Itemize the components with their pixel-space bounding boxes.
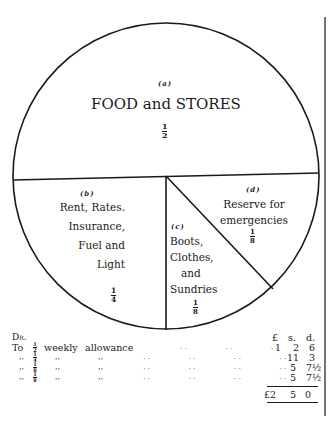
slice-b-fraction: 14	[111, 287, 116, 303]
total-rule-bottom	[267, 402, 318, 403]
slice-d-line: Reserve for	[219, 196, 289, 212]
ledger-row-2-desc2: ,,	[98, 352, 103, 361]
total-pence: 0	[305, 389, 311, 400]
slice-b-line: Insurance,	[15, 217, 125, 236]
fraction-denominator: 4	[111, 296, 116, 303]
fraction-denominator: 8	[250, 238, 255, 245]
slice-b-line: Fuel and	[15, 236, 125, 255]
slice-c-line: Clothes,	[170, 249, 217, 265]
slice-c-tag: (c)	[171, 222, 185, 231]
fraction-numerator: 1	[250, 229, 255, 236]
ledger-row-3-desc2: ,,	[98, 362, 103, 371]
slice-d-fraction: 18	[250, 229, 255, 244]
ledger-row-1-dots: .. .. ..	[180, 342, 280, 351]
ledger-row-4-pence: 7½	[306, 372, 321, 383]
total-rule-top	[267, 386, 318, 387]
fraction-denominator: 8	[33, 378, 36, 383]
fraction-numerator: 1	[193, 300, 198, 307]
ledger-row-3-prefix: ,,	[19, 362, 24, 371]
ledger-row-4-shillings: 5	[290, 372, 296, 383]
ledger-row-4-fraction: 18	[33, 372, 37, 382]
ledger-row-3-dots: .. .. .. ..	[143, 362, 288, 371]
ledger-row-2-dots: .. .. .. ..	[143, 352, 288, 361]
slice-d-line: emergencies	[219, 212, 289, 228]
ledger-row-3-desc1: ,,	[55, 362, 60, 371]
ledger-row-4-prefix: ,,	[19, 372, 24, 381]
slice-a-label: FOOD and STORES	[91, 95, 241, 113]
ledger-heading: Dr.	[12, 332, 27, 342]
ledger-row-1-desc1: weekly	[44, 342, 78, 353]
ledger-row-2-prefix: ,,	[19, 352, 24, 361]
slice-b-line: Light	[15, 255, 125, 274]
ledger-row-4-desc2: ,,	[98, 372, 103, 381]
slice-a-fraction: 12	[162, 123, 168, 139]
slice-c-fraction: 18	[193, 300, 198, 315]
fraction-numerator: 1	[162, 123, 168, 130]
fraction-denominator: 2	[162, 132, 168, 139]
slice-c-label: Boots, Clothes, and Sundries	[170, 233, 217, 297]
slice-b-line: Rent, Rates.	[15, 198, 125, 217]
slice-c-line: Sundries	[170, 281, 217, 297]
slice-d-tag: (d)	[246, 185, 261, 194]
ledger-row-1-desc2: allowance	[85, 342, 133, 353]
ledger-row-4-desc1: ,,	[55, 372, 60, 381]
fraction-denominator: 8	[193, 309, 198, 316]
total-pounds: £2	[264, 389, 276, 400]
slice-c-line: and	[170, 265, 217, 281]
slice-c-line: Boots,	[170, 233, 217, 249]
ledger-row-4-dots: .. .. .. ..	[143, 372, 288, 381]
ledger-row-2-desc1: ,,	[55, 352, 60, 361]
slice-a-tag: (a)	[158, 79, 172, 88]
slice-d-label: Reserve for emergencies	[219, 196, 289, 228]
slice-b-tag: (b)	[80, 189, 95, 198]
fraction-numerator: 1	[111, 287, 116, 294]
slice-b-label: Rent, Rates. Insurance, Fuel and Light	[15, 198, 125, 274]
total-shillings: 5	[290, 389, 296, 400]
